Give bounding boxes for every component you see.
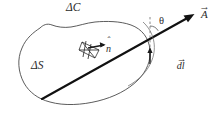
label-field-vector: A→	[201, 9, 208, 20]
label-line-element-base: dl	[177, 61, 185, 71]
figure-canvas	[0, 0, 211, 114]
label-boundary-curve: ΔC	[66, 2, 80, 14]
hatched-area-patch	[79, 41, 99, 59]
label-surface-area: ΔS	[31, 60, 44, 72]
theta-angle-arc	[150, 26, 158, 31]
label-normal-vector-base: n	[106, 44, 111, 54]
label-normal-vector: nˆ	[106, 44, 111, 54]
vector-A-arrow	[42, 14, 195, 99]
label-field-vector-base: A	[201, 9, 208, 20]
label-line-element: dl→	[177, 61, 185, 71]
label-angle-theta: θ	[159, 16, 164, 27]
vector-calculus-figure: ΔC ΔS nˆ θ A→ dl→	[0, 0, 211, 114]
